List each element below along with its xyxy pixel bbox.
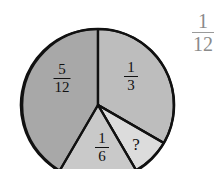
- fraction-denominator: 12: [192, 34, 214, 54]
- fraction-numerator: 1: [126, 60, 136, 75]
- fraction-denominator: 3: [126, 78, 136, 93]
- fraction-denominator: 6: [97, 149, 107, 164]
- fraction-1-12: 1 12: [192, 11, 214, 54]
- slice-label-5-12: 5 12: [54, 61, 71, 95]
- fraction-1-6: 1 6: [95, 131, 109, 164]
- fraction-numerator: 1: [97, 131, 107, 146]
- answer-fraction-annotation: 1 12: [192, 10, 214, 54]
- pie-chart-figure: 5 12 1 3 1 6 ? 1 12: [0, 0, 222, 169]
- fraction-1-3: 1 3: [124, 60, 138, 93]
- fraction-5-12: 5 12: [54, 62, 71, 95]
- slice-label-unknown: ?: [132, 135, 140, 155]
- fraction-numerator: 1: [197, 11, 209, 31]
- slice-label-1-3: 1 3: [124, 59, 138, 93]
- fraction-numerator: 5: [57, 62, 67, 77]
- pie-chart-svg: [0, 0, 222, 169]
- slice-label-1-6: 1 6: [95, 130, 109, 164]
- fraction-denominator: 12: [54, 80, 71, 95]
